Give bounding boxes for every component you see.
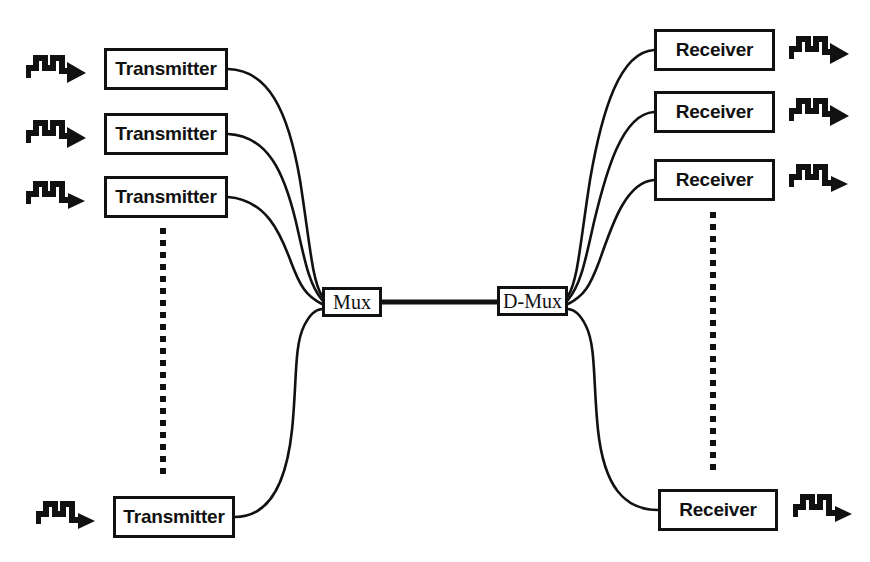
ellipsis-dot <box>710 236 716 242</box>
receiver-label-2: Receiver <box>676 101 754 123</box>
link-txN-mux <box>235 309 322 517</box>
ellipsis-dot <box>710 284 716 290</box>
ellipsis-dot <box>710 344 716 350</box>
link-dmux-rx1 <box>568 50 654 296</box>
ellipsis-dot <box>710 260 716 266</box>
ellipsis-dot <box>710 440 716 446</box>
wdm-block-diagram: Transmitter Transmitter Transmitter Tran… <box>0 0 870 562</box>
square-wave-arrow-icon-output-n <box>793 491 857 529</box>
ellipsis-dot <box>160 276 166 282</box>
ellipsis-dot <box>160 432 166 438</box>
mux-label: Mux <box>333 291 371 314</box>
transmitter-box-1[interactable]: Transmitter <box>104 48 228 90</box>
square-wave-arrow-icon-input-3 <box>26 178 90 216</box>
dmux-box[interactable]: D-Mux <box>497 286 568 316</box>
ellipsis-dot <box>160 312 166 318</box>
ellipsis-dot <box>160 324 166 330</box>
receiver-label-3: Receiver <box>676 169 754 191</box>
dmux-label: D-Mux <box>503 290 562 313</box>
mux-box[interactable]: Mux <box>322 287 382 317</box>
ellipsis-dot <box>710 428 716 434</box>
receiver-box-n[interactable]: Receiver <box>658 489 778 531</box>
transmitter-label-2: Transmitter <box>115 123 216 145</box>
vertical-dotted-continuation-receivers <box>710 212 716 476</box>
ellipsis-dot <box>160 300 166 306</box>
receiver-box-3[interactable]: Receiver <box>654 159 775 201</box>
vertical-dotted-continuation-transmitters <box>160 228 166 482</box>
receiver-box-1[interactable]: Receiver <box>654 29 775 71</box>
ellipsis-dot <box>710 308 716 314</box>
square-wave-arrow-icon-output-1 <box>789 31 853 69</box>
ellipsis-dot <box>710 452 716 458</box>
ellipsis-dot <box>160 288 166 294</box>
ellipsis-dot <box>160 336 166 342</box>
ellipsis-dot <box>160 384 166 390</box>
transmitter-label-1: Transmitter <box>115 58 216 80</box>
ellipsis-dot <box>160 228 166 234</box>
ellipsis-dot <box>160 444 166 450</box>
ellipsis-dot <box>160 408 166 414</box>
link-dmux-rx2 <box>568 112 654 300</box>
ellipsis-dot <box>160 348 166 354</box>
transmitter-label-3: Transmitter <box>115 186 216 208</box>
ellipsis-dot <box>710 392 716 398</box>
ellipsis-dot <box>710 320 716 326</box>
ellipsis-dot <box>710 464 716 470</box>
square-wave-arrow-icon-input-2 <box>26 115 90 153</box>
receiver-box-2[interactable]: Receiver <box>654 91 775 133</box>
ellipsis-dot <box>710 296 716 302</box>
transmitter-box-n[interactable]: Transmitter <box>113 496 235 538</box>
ellipsis-dot <box>160 456 166 462</box>
ellipsis-dot <box>710 224 716 230</box>
link-tx3-mux <box>228 197 322 304</box>
ellipsis-dot <box>160 360 166 366</box>
ellipsis-dot <box>160 252 166 258</box>
ellipsis-dot <box>710 272 716 278</box>
square-wave-arrow-icon-output-3 <box>789 161 853 199</box>
ellipsis-dot <box>160 420 166 426</box>
ellipsis-dot <box>160 372 166 378</box>
ellipsis-dot <box>710 332 716 338</box>
square-wave-arrow-icon-input-n <box>36 498 100 536</box>
ellipsis-dot <box>710 368 716 374</box>
receiver-label-1: Receiver <box>676 39 754 61</box>
ellipsis-dot <box>710 416 716 422</box>
ellipsis-dot <box>710 404 716 410</box>
transmitter-box-2[interactable]: Transmitter <box>104 113 228 155</box>
link-tx2-mux <box>228 134 322 300</box>
ellipsis-dot <box>710 248 716 254</box>
link-tx1-mux <box>228 69 322 296</box>
ellipsis-dot <box>160 240 166 246</box>
ellipsis-dot <box>710 380 716 386</box>
transmitter-box-3[interactable]: Transmitter <box>104 176 228 218</box>
transmitter-label-n: Transmitter <box>123 506 224 528</box>
ellipsis-dot <box>160 264 166 270</box>
receiver-label-n: Receiver <box>679 499 757 521</box>
ellipsis-dot <box>160 396 166 402</box>
square-wave-arrow-icon-output-2 <box>789 93 853 131</box>
ellipsis-dot <box>710 212 716 218</box>
square-wave-arrow-icon-input-1 <box>26 50 90 88</box>
link-dmux-rxN <box>568 309 658 510</box>
ellipsis-dot <box>160 468 166 474</box>
ellipsis-dot <box>710 356 716 362</box>
